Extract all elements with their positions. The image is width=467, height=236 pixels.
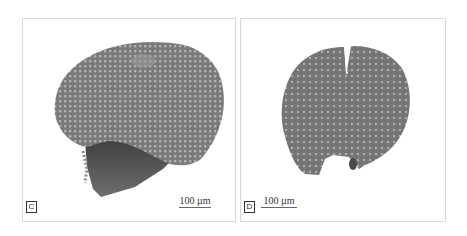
scale-bar-c: 100 µm	[179, 195, 211, 208]
figure-panel-c: C 100 µm	[22, 18, 236, 222]
scale-bar-line-c	[179, 207, 211, 208]
scale-bar-text-d: 100 µm	[263, 195, 294, 206]
specimen-d-image	[241, 19, 447, 223]
scale-bar-text-c: 100 µm	[179, 195, 210, 206]
panel-label-c: C	[26, 201, 37, 213]
figure-panel-d: D 100 µm	[240, 18, 446, 222]
scale-bar-line-d	[261, 207, 297, 208]
specimen-c-image	[23, 19, 237, 223]
panel-label-d: D	[244, 201, 255, 213]
scale-bar-d: 100 µm	[261, 195, 297, 208]
